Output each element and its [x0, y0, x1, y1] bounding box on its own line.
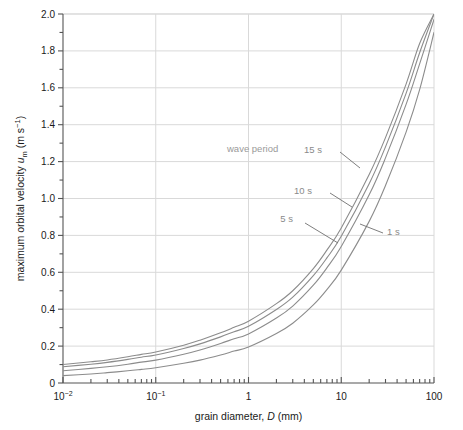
curve-label-1-s: 1 s [387, 226, 400, 237]
y-tick-label: 1.4 [41, 119, 55, 130]
y-tick-label: 0.6 [41, 267, 55, 278]
y-tick-label: 1.8 [41, 45, 55, 56]
gridlines [63, 14, 434, 383]
x-tick-label: 10 [336, 391, 348, 402]
curve-label-15-s: 15 s [304, 144, 322, 155]
wave-period-group-label: wave period [226, 143, 278, 154]
y-tick-label: 0.2 [41, 341, 55, 352]
x-tick-label: 10−1 [146, 390, 165, 403]
x-tick-label: 10−2 [53, 390, 72, 403]
tick-labels: 00.20.40.60.81.01.21.41.61.82.010−210−11… [41, 9, 443, 403]
y-tick-label: 0 [49, 378, 55, 389]
curve-label-10-s: 10 s [294, 185, 312, 196]
y-tick-label: 0.4 [41, 304, 55, 315]
x-tick-label: 100 [426, 391, 443, 402]
y-tick-label: 0.8 [41, 230, 55, 241]
curve-label-5-s: 5 s [280, 213, 293, 224]
y-axis-title: maximum orbital velocity um (m s−1) [13, 116, 29, 281]
annotation-leader-lines [305, 152, 383, 243]
x-axis-title: grain diameter, D (mm) [195, 410, 302, 422]
curve-annotations: wave period15 s10 s5 s1 s [226, 143, 400, 237]
y-tick-label: 2.0 [41, 9, 55, 20]
y-tick-label: 1.6 [41, 82, 55, 93]
chart-svg: 00.20.40.60.81.01.21.41.61.82.010−210−11… [0, 0, 463, 430]
y-tick-label: 1.2 [41, 156, 55, 167]
chart-figure: 00.20.40.60.81.01.21.41.61.82.010−210−11… [0, 0, 463, 430]
leader-15s [340, 152, 360, 168]
y-tick-label: 1.0 [41, 193, 55, 204]
x-tick-label: 1 [246, 391, 252, 402]
leader-5s [305, 223, 338, 243]
